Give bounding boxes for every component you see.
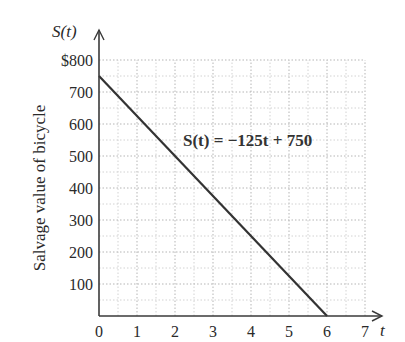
x-tick-label: 6 [323,323,331,340]
x-tick-label: 2 [171,323,179,340]
x-tick-label: 4 [247,323,255,340]
x-tick-label: 3 [209,323,217,340]
grid [99,60,365,316]
x-tick-labels: 01234567 [95,323,369,340]
x-axis-name: t [380,321,386,340]
y-tick-label: $800 [61,52,93,69]
y-tick-label: 500 [69,148,93,165]
y-axis-label: Salvage value of bicycle [30,105,49,272]
y-tick-label: 700 [69,84,93,101]
chart: 01234567 100200300400500600700$800 S(t) … [0,0,405,342]
y-tick-label: 200 [69,244,93,261]
x-tick-label: 1 [133,323,141,340]
y-tick-label: 100 [69,276,93,293]
equation-annotation: S(t) = −125t + 750 [183,131,312,150]
y-tick-label: 600 [69,116,93,133]
x-tick-label: 7 [361,323,369,340]
y-tick-labels: 100200300400500600700$800 [61,52,93,293]
y-axis-name: S(t) [52,22,77,41]
y-tick-label: 300 [69,212,93,229]
x-tick-label: 5 [285,323,293,340]
x-tick-label: 0 [95,323,103,340]
y-tick-label: 400 [69,180,93,197]
